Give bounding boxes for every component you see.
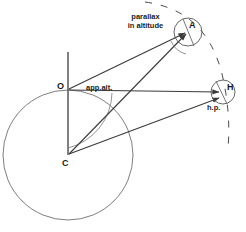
point-label-O: O bbox=[57, 82, 64, 91]
point-label-A: A bbox=[189, 21, 196, 30]
parallax-diagram: O C A H parallax in altitude app.alt. h.… bbox=[0, 0, 246, 232]
point-label-C: C bbox=[62, 159, 69, 168]
ray-C-to-H bbox=[69, 98, 219, 154]
annotation-app-alt: app.alt. bbox=[86, 83, 126, 92]
ray-C-to-A bbox=[69, 34, 186, 154]
annotation-parallax-in-altitude: parallax in altitude bbox=[118, 12, 173, 30]
diagram-canvas bbox=[0, 0, 246, 232]
annotation-hp: h.p. bbox=[207, 103, 231, 112]
app-alt-angle-arc bbox=[68, 93, 112, 148]
point-label-H: H bbox=[227, 83, 234, 92]
annotation-parallax-line-1: parallax bbox=[118, 12, 173, 21]
ray-O-to-A bbox=[69, 33, 185, 89]
annotation-parallax-line-2: in altitude bbox=[118, 21, 173, 30]
